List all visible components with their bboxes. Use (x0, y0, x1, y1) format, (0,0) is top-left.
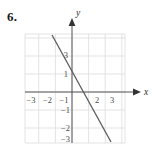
y-tick-label-neg1: −1 (61, 105, 70, 115)
coordinate-plane-graph: x y −3 −2 −1 2 3 3 1 −1 −2 −3 (0, 0, 155, 160)
y-tick-label-neg3: −3 (61, 134, 70, 144)
grid-background (25, 34, 125, 143)
y-tick-label-neg2: −2 (61, 123, 70, 133)
x-tick-label-2: 2 (95, 95, 99, 105)
x-tick-label-neg2: −2 (43, 95, 52, 105)
x-axis-label: x (143, 87, 149, 97)
exercise-figure: 6. (0, 0, 155, 160)
x-tick-label-neg3: −3 (26, 95, 35, 105)
y-tick-label-3: 3 (64, 50, 68, 60)
x-tick-label-3: 3 (110, 95, 114, 105)
x-tick-label-neg1: −1 (59, 95, 68, 105)
y-axis-label: y (75, 8, 81, 18)
y-tick-label-1: 1 (64, 69, 68, 79)
